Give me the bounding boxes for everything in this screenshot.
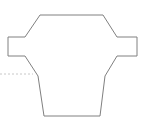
flanged-body-outline [8, 15, 137, 116]
figure-canvas [0, 0, 151, 118]
shape-diagram [0, 0, 151, 118]
